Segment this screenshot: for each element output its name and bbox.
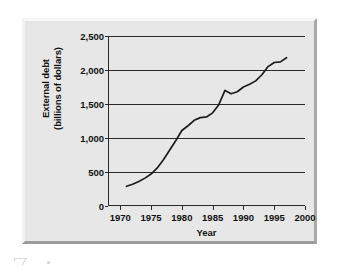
- x-tick-mark: [182, 206, 183, 210]
- y-tick-label: 1,500: [80, 99, 104, 110]
- chart-panel-inner: External debt (billions of dollars) 0500…: [25, 21, 314, 241]
- plot-area: 05001,0001,5002,0002,500 197019751980198…: [108, 36, 305, 206]
- x-tick-label: 1980: [171, 212, 192, 223]
- data-line-series: [108, 36, 305, 206]
- x-tick-mark: [120, 206, 121, 210]
- x-axis-title: Year: [108, 227, 305, 238]
- scan-artifact-dot: [47, 261, 50, 264]
- y-tick-label: 2,500: [80, 31, 104, 42]
- x-tick-mark: [305, 206, 306, 210]
- x-tick-mark: [213, 206, 214, 210]
- x-tick-label: 1970: [110, 212, 131, 223]
- y-tick-label: 2,000: [80, 65, 104, 76]
- x-tick-label: 1990: [233, 212, 254, 223]
- chart-panel: External debt (billions of dollars) 0500…: [22, 18, 317, 244]
- y-axis-title: External debt (billions of dollars): [40, 9, 63, 169]
- x-tick-label: 1975: [141, 212, 162, 223]
- x-tick-label: 1985: [202, 212, 223, 223]
- x-tick-label: 1995: [264, 212, 285, 223]
- x-tick-label: 2000: [294, 212, 315, 223]
- x-tick-mark: [274, 206, 275, 210]
- scan-artifact-icon: [13, 256, 30, 267]
- y-tick-label: 0: [99, 201, 104, 212]
- y-tick-label: 500: [88, 167, 104, 178]
- y-axis-title-line2: (billions of dollars): [51, 9, 63, 169]
- x-tick-mark: [151, 206, 152, 210]
- x-tick-mark: [243, 206, 244, 210]
- y-axis-title-line1: External debt: [40, 9, 52, 169]
- y-tick-label: 1,000: [80, 133, 104, 144]
- y-tick-mark: [105, 206, 108, 207]
